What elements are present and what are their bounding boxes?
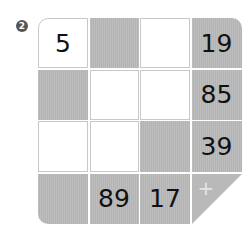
- grid-cell-r3c2-sum: 17: [140, 174, 190, 224]
- puzzle-number-badge: 2: [16, 20, 28, 32]
- grid-cell-r1c3-sum: 85: [192, 70, 242, 120]
- grid-cell-r1c1[interactable]: [90, 70, 139, 120]
- grid-cell-r0c3-sum: 19: [192, 18, 242, 68]
- grid-cell-r2c0[interactable]: [38, 121, 88, 172]
- grid-cell-r3c3-corner: +: [192, 174, 242, 224]
- grid-cell-r3c1-sum: 89: [90, 174, 139, 224]
- grid-cell-r2c3-sum: 39: [192, 121, 242, 172]
- grid-cell-r2c1[interactable]: [90, 121, 139, 172]
- grid-cell-r1c0: [38, 70, 88, 120]
- grid-cell-r0c1: [90, 18, 139, 68]
- grid-cell-r2c2: [140, 121, 190, 172]
- grid-cell-r0c0[interactable]: 5: [38, 18, 88, 68]
- grid-cell-r0c2[interactable]: [140, 18, 190, 68]
- grid-cell-r1c2[interactable]: [140, 70, 190, 120]
- plus-icon: +: [198, 178, 215, 198]
- grid-cell-r3c0: [38, 174, 88, 224]
- puzzle-grid: 5 19 85 39 89 17 +: [38, 18, 241, 222]
